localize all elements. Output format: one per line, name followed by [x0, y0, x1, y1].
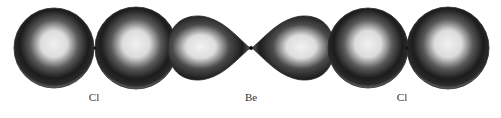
cl-left-inner-lobe [95, 7, 177, 89]
cl-right-nucleus [405, 46, 408, 49]
cl-right-outer-lobe [407, 7, 489, 89]
cl-right-inner-lobe [328, 8, 408, 88]
label-cl-left: Cl [89, 91, 99, 103]
cl-left-nucleus [93, 46, 96, 49]
be-left-sp-lobe [168, 16, 250, 80]
be-nucleus [249, 46, 253, 50]
label-be: Be [245, 91, 257, 103]
be-right-sp-lobe [252, 16, 334, 80]
cl-left-outer-lobe [14, 8, 94, 88]
label-cl-right: Cl [397, 91, 407, 103]
